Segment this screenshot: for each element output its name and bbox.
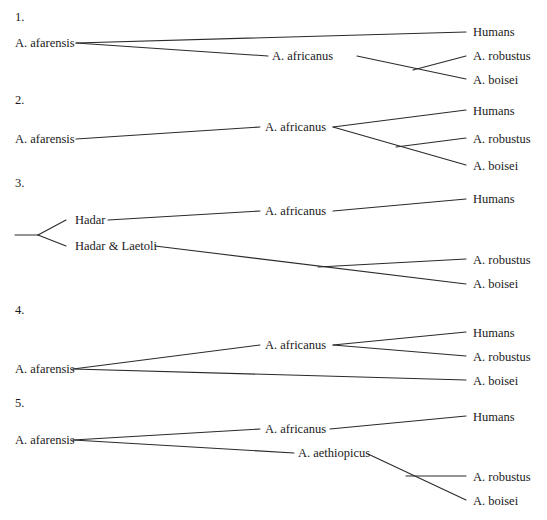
taxon-label: A. boisei [473, 494, 519, 508]
taxon-label: A. africanus [272, 49, 333, 63]
tree-2: 2.A. afarensisA. africanusHumansA. robus… [15, 93, 531, 173]
branch-line [38, 235, 66, 246]
taxon-label: Humans [473, 192, 515, 206]
taxon-label: A. robustus [473, 49, 531, 63]
branch-line [73, 440, 294, 453]
branch-line [108, 211, 260, 220]
taxon-label: A. robustus [473, 350, 531, 364]
taxon-label: A. africanus [265, 204, 326, 218]
taxon-label: A. afarensis [15, 433, 75, 447]
taxon-label: Hadar [75, 213, 106, 227]
phylogeny-diagram: 1.A. afarensisA. africanusHumansA. robus… [0, 0, 547, 520]
taxon-label: A. robustus [473, 253, 531, 267]
branch-line [76, 43, 268, 56]
branch-line [73, 369, 466, 380]
taxon-label: A. boisei [473, 159, 519, 173]
tree-1: 1.A. afarensisA. africanusHumansA. robus… [15, 10, 531, 87]
branch-line [333, 345, 466, 356]
branch-line [333, 332, 466, 345]
taxon-label: A. afarensis [15, 132, 75, 146]
tree-heading: 3. [15, 176, 24, 190]
branch-line [333, 110, 466, 127]
branch-line [396, 138, 466, 147]
branch-line [333, 199, 466, 211]
tree-heading: 1. [15, 10, 24, 24]
tree-heading: 5. [15, 396, 24, 410]
taxon-label: Humans [473, 104, 515, 118]
taxon-label: A. africanus [265, 338, 326, 352]
taxon-label: Hadar & Laetoli [75, 239, 157, 253]
branch-line [76, 127, 260, 139]
taxon-label: Humans [473, 25, 515, 39]
taxon-label: A. robustus [473, 132, 531, 146]
taxon-label: A. afarensis [15, 36, 75, 50]
branch-line [318, 259, 466, 267]
taxon-label: A. africanus [265, 422, 326, 436]
tree-heading: 4. [15, 303, 24, 317]
taxon-label: Humans [473, 326, 515, 340]
taxon-label: A. boisei [473, 374, 519, 388]
tree-3: 3.HadarHadar & LaetoliA. africanusHumans… [15, 176, 531, 291]
branch-line [413, 56, 466, 70]
branch-line [368, 454, 466, 500]
branch-line [76, 32, 466, 43]
branch-line [73, 345, 260, 369]
tree-heading: 2. [15, 93, 24, 107]
tree-4: 4.A. afarensisA. africanusHumansA. robus… [15, 303, 531, 388]
branch-line [38, 220, 66, 235]
taxon-label: A. aethiopicus [298, 446, 370, 460]
taxon-label: A. robustus [473, 470, 531, 484]
branch-line [73, 429, 260, 440]
taxon-label: A. boisei [473, 277, 519, 291]
branch-line [330, 416, 466, 429]
tree-5: 5.A. afarensisA. africanusA. aethiopicus… [15, 396, 531, 508]
branch-line [357, 56, 466, 79]
branch-line [155, 246, 466, 284]
taxon-label: A. boisei [473, 73, 519, 87]
taxon-label: Humans [473, 410, 515, 424]
taxon-label: A. africanus [265, 120, 326, 134]
taxon-label: A. afarensis [15, 362, 75, 376]
